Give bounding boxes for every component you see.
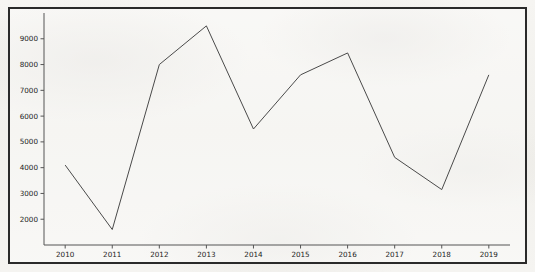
x-tick-label: 2017 — [386, 250, 404, 259]
x-tick-label: 2016 — [338, 250, 357, 259]
x-tick-label: 2015 — [291, 250, 309, 259]
x-tick-label: 2019 — [480, 250, 499, 259]
y-tick-label: 8000 — [20, 60, 39, 69]
chart-page: 20003000400050006000700080009000 2010201… — [0, 0, 535, 272]
y-tick-label: 3000 — [20, 189, 39, 198]
y-tick-label: 2000 — [20, 215, 39, 224]
x-tick-label: 2011 — [103, 250, 121, 259]
data-line-series-1 — [65, 26, 489, 230]
y-tick-label: 9000 — [20, 34, 39, 43]
x-tick-label: 2018 — [433, 250, 452, 259]
y-tick-label: 6000 — [20, 112, 39, 121]
data-series-group — [65, 26, 489, 230]
y-tick-label: 5000 — [20, 137, 39, 146]
x-tick-label: 2012 — [150, 250, 168, 259]
x-tick-label: 2014 — [244, 250, 263, 259]
x-tick-label: 2010 — [56, 250, 75, 259]
line-chart: 20003000400050006000700080009000 2010201… — [0, 0, 535, 272]
y-axis-ticks: 20003000400050006000700080009000 — [20, 34, 44, 223]
x-axis-ticks: 2010201120122013201420152016201720182019 — [56, 245, 498, 259]
x-tick-label: 2013 — [197, 250, 215, 259]
plot-area-background — [44, 13, 510, 245]
y-tick-label: 4000 — [20, 163, 39, 172]
y-tick-label: 7000 — [20, 86, 39, 95]
